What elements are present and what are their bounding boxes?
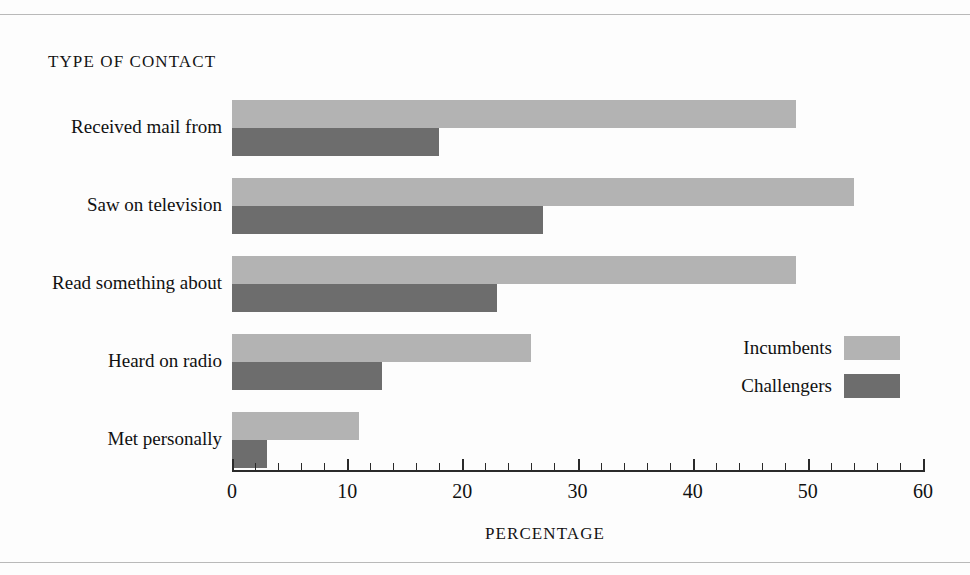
chart-legend: IncumbentsChallengers [700,333,900,409]
x-axis-minor-tick [785,463,786,470]
legend-item[interactable]: Challengers [700,371,900,401]
x-axis-major-tick [923,459,925,470]
x-axis-minor-tick [416,463,417,470]
x-axis-minor-tick [439,463,440,470]
x-axis-minor-tick [601,463,602,470]
x-axis-minor-tick [554,463,555,470]
x-axis-minor-tick [278,463,279,470]
x-axis-minor-tick [854,463,855,470]
x-tick-label: 30 [554,480,602,503]
bar-incumbents [232,334,531,362]
plot-area: Received mail fromSaw on televisionRead … [0,0,970,575]
category-label: Received mail from [2,117,222,136]
x-axis-title: PERCENTAGE [0,524,970,544]
category-label: Saw on television [2,195,222,214]
x-axis-minor-tick [393,463,394,470]
bar-challengers [232,206,543,234]
x-axis-minor-tick [531,463,532,470]
x-tick-label: 0 [208,480,256,503]
x-axis-minor-tick [900,463,901,470]
x-axis-line [232,470,925,472]
category-label: Met personally [2,429,222,448]
legend-label: Incumbents [743,337,832,359]
x-axis-minor-tick [647,463,648,470]
bar-challengers [232,362,382,390]
x-axis-minor-tick [716,463,717,470]
x-axis-major-tick [808,459,810,470]
x-axis-major-tick [232,459,234,470]
x-axis-minor-tick [831,463,832,470]
x-tick-label: 40 [669,480,717,503]
x-axis-major-tick [462,459,464,470]
chart-page: TYPE OF CONTACT Received mail fromSaw on… [0,0,970,575]
legend-swatch-incumbents [844,336,900,360]
legend-swatch-challengers [844,374,900,398]
x-axis-major-tick [578,459,580,470]
x-axis-minor-tick [508,463,509,470]
x-axis-minor-tick [301,463,302,470]
x-tick-label: 50 [784,480,832,503]
x-axis-minor-tick [370,463,371,470]
bar-incumbents [232,256,796,284]
x-tick-label: 10 [323,480,371,503]
x-axis-minor-tick [670,463,671,470]
category-label: Heard on radio [2,351,222,370]
x-axis-major-tick [693,459,695,470]
x-tick-label: 60 [899,480,947,503]
x-axis-minor-tick [739,463,740,470]
bar-incumbents [232,178,854,206]
bar-incumbents [232,412,359,440]
x-tick-label: 20 [438,480,486,503]
x-axis-minor-tick [255,463,256,470]
x-axis-major-tick [347,459,349,470]
bar-challengers [232,440,267,468]
x-axis-minor-tick [624,463,625,470]
legend-label: Challengers [741,375,832,397]
x-axis-minor-tick [877,463,878,470]
bar-challengers [232,284,497,312]
bar-challengers [232,128,439,156]
category-label: Read something about [2,273,222,292]
bar-incumbents [232,100,796,128]
x-axis-minor-tick [324,463,325,470]
x-axis-minor-tick [485,463,486,470]
x-axis-minor-tick [762,463,763,470]
legend-item[interactable]: Incumbents [700,333,900,363]
